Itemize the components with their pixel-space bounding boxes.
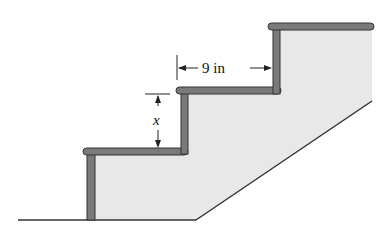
riser-1 [87,154,95,220]
riser-3 [273,29,280,94]
tread-depth-label: 9 in [202,60,225,76]
riser-height-label: x [152,112,160,128]
tread-3 [268,23,374,30]
tread-1 [83,148,188,155]
tread-depth-dimension: 9 in [177,55,272,80]
arrow-left-icon [178,65,186,71]
arrow-down-icon [155,140,161,148]
arrow-up-icon [155,95,161,103]
arrow-right-icon [264,65,272,71]
tread-2 [176,87,281,94]
riser-2 [181,93,188,154]
riser-height-dimension: x [145,94,170,148]
stair-body [90,30,372,220]
staircase-diagram: 9 in x [0,0,386,237]
